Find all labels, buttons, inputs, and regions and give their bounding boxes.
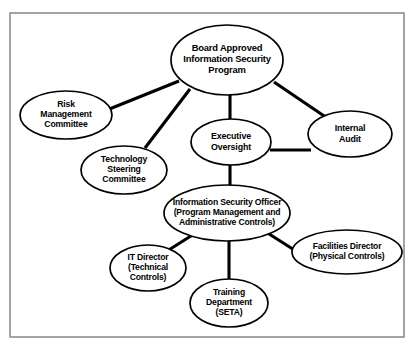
edge-board-audit [274,82,330,120]
node-label-line: Committee [102,175,146,185]
node-label-line: Executive [211,131,251,141]
node-label-line: Training [213,287,245,297]
node-label-iso: Information Security Officer(Program Man… [173,197,282,228]
org-chart-diagram: Board ApprovedInformation SecurityProgra… [0,0,418,351]
node-technology[interactable]: TechnologySteeringCommittee [81,146,167,194]
node-label-line: Steering [107,164,140,174]
nodes-group: Board ApprovedInformation SecurityProgra… [20,25,402,327]
node-label-line: IT Director [128,252,170,262]
node-board[interactable]: Board ApprovedInformation SecurityProgra… [171,25,283,95]
node-label-line: (Technical [128,262,168,272]
node-label-line: Technology [101,154,148,164]
node-label-line: Program [208,65,245,76]
node-training[interactable]: TrainingDepartment(SETA) [190,279,268,327]
node-label-line: Internal [335,123,366,133]
node-label-line: Department [206,297,252,307]
node-label-line: Facilities Director [313,241,383,251]
node-label-line: Management [40,109,92,119]
node-label-line: Information Security Officer [173,197,282,207]
diagram-canvas: Board ApprovedInformation SecurityProgra… [0,0,418,351]
node-label-line: Board Approved [192,42,263,53]
node-label-line: Committee [44,120,88,130]
node-label-line: Controls) [130,272,167,282]
node-label-technology: TechnologySteeringCommittee [101,154,148,185]
node-risk[interactable]: RiskManagementCommittee [20,91,112,139]
node-label-it-director: IT Director(TechnicalControls) [128,252,170,282]
node-it-director[interactable]: IT Director(TechnicalControls) [110,245,186,291]
node-label-audit: InternalAudit [335,123,366,144]
node-label-line: Audit [339,134,361,144]
edge-board-risk [102,81,179,112]
edge-board-technology [145,89,190,148]
node-label-line: (SETA) [216,307,243,317]
node-executive[interactable]: ExecutiveOversight [191,119,271,165]
node-label-line: Risk [57,99,75,109]
node-label-facilities: Facilities Director(Physical Controls) [310,241,385,261]
node-label-line: Oversight [211,142,251,152]
node-label-line: Administrative Controls) [179,218,275,228]
node-label-line: (Physical Controls) [310,251,385,261]
node-label-line: (Program Management and [174,207,281,217]
node-label-executive: ExecutiveOversight [211,131,251,152]
node-audit[interactable]: InternalAudit [308,111,392,157]
node-facilities[interactable]: Facilities Director(Physical Controls) [292,230,402,274]
node-label-line: Information Security [183,53,272,64]
node-iso[interactable]: Information Security Officer(Program Man… [164,185,290,241]
